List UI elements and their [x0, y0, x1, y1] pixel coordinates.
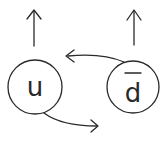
node-dbar: d	[107, 61, 159, 113]
curved-arrow-right	[44, 113, 98, 132]
node-dbar-label: d	[125, 78, 142, 108]
up-arrow-dbar	[127, 10, 141, 45]
node-u-label: u	[27, 72, 43, 102]
node-u: u	[8, 60, 62, 114]
curved-arrow-left	[66, 50, 124, 62]
diagram-canvas: u d	[0, 0, 167, 141]
up-arrow-u	[27, 10, 41, 46]
